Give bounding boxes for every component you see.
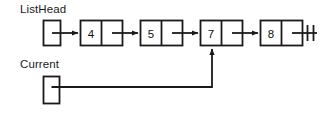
node-4: 4 bbox=[81, 21, 139, 46]
linked-list-diagram: ListHead Current 4 5 bbox=[0, 0, 329, 116]
current-to-node7-connector bbox=[52, 49, 213, 87]
node-5-value: 5 bbox=[148, 28, 154, 40]
node-7-value: 7 bbox=[208, 28, 214, 40]
node-5: 5 bbox=[141, 21, 199, 46]
diagram-canvas: 4 5 7 8 bbox=[0, 0, 329, 116]
current-to-node7-arrow bbox=[52, 49, 213, 87]
current-pointer-box bbox=[44, 77, 60, 104]
list-head-pointer-box bbox=[44, 21, 79, 46]
current-box-outline bbox=[44, 77, 60, 104]
node-8-value: 8 bbox=[268, 28, 274, 40]
node-8: 8 bbox=[261, 21, 318, 46]
node-4-value: 4 bbox=[88, 28, 95, 40]
node-7: 7 bbox=[201, 21, 259, 46]
